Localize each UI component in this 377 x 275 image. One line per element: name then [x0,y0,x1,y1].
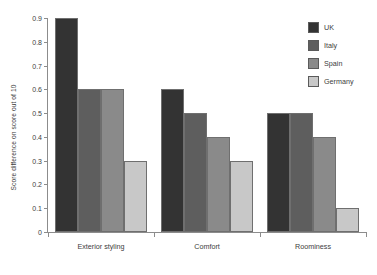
x-tick-mark [154,232,155,237]
y-tick-label: 0.4 [32,133,42,140]
bar [101,89,124,232]
y-tick-label: 0.5 [32,110,42,117]
legend-swatch-icon [308,40,319,51]
legend-item-italy: Italy [308,36,376,54]
x-tick-mark [366,232,367,237]
bar [313,137,336,232]
y-tick-label: 0.6 [32,86,42,93]
bar [207,137,230,232]
bar [336,208,359,232]
y-axis-title: Score difference on score out of 10 [8,0,20,275]
y-tick-mark [44,137,48,138]
bar-chart: Score difference on score out of 10 00.1… [0,0,377,275]
y-tick-label: 0 [38,229,42,236]
y-tick-label: 0.1 [32,205,42,212]
bar [161,89,184,232]
bar [184,113,207,232]
legend-label: Spain [324,59,342,68]
bar [290,113,313,232]
x-tick-mark [48,232,49,237]
bar [55,18,78,232]
x-tick-mark [260,232,261,237]
legend-swatch-icon [308,58,319,69]
y-tick-mark [44,66,48,67]
legend-item-uk: UK [308,18,376,36]
bar [124,161,147,232]
y-tick-label: 0.2 [32,181,42,188]
x-axis-line [48,232,366,233]
bar [267,113,290,232]
y-tick-mark [44,161,48,162]
x-axis-group-label: Exterior styling [77,242,124,251]
y-tick-label: 0.3 [32,157,42,164]
bar [78,89,101,232]
legend-label: Germany [324,77,354,86]
y-tick-mark [44,89,48,90]
y-tick-label: 0.7 [32,62,42,69]
y-tick-mark [44,113,48,114]
legend-label: UK [324,23,334,32]
legend: UKItalySpainGermany [308,18,376,90]
legend-swatch-icon [308,76,319,87]
y-tick-mark [44,208,48,209]
legend-item-spain: Spain [308,54,376,72]
bar [230,161,253,232]
y-tick-mark [44,42,48,43]
y-tick-mark [44,184,48,185]
y-tick-label: 0.9 [32,15,42,22]
x-axis-group-label: Roominess [295,242,331,251]
y-tick-label: 0.8 [32,38,42,45]
legend-swatch-icon [308,22,319,33]
legend-item-germany: Germany [308,72,376,90]
x-axis-group-label: Comfort [194,242,220,251]
y-tick-mark [44,18,48,19]
legend-label: Italy [324,41,337,50]
